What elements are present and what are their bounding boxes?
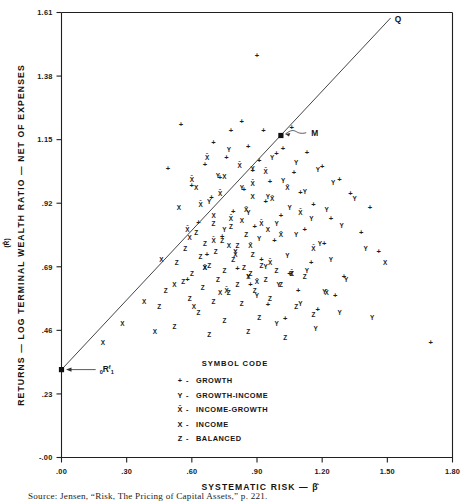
data-point: Y	[353, 195, 358, 202]
data-point: X̄	[270, 195, 275, 203]
data-point: Y	[363, 245, 368, 252]
data-point: Z	[235, 242, 239, 249]
data-point: X̄	[244, 206, 249, 214]
legend-label: INCOME	[196, 420, 229, 429]
data-point: Z	[220, 237, 224, 244]
data-point: Z	[268, 295, 272, 302]
data-point: +	[211, 138, 216, 147]
y-axis-symbol: (R̂)	[2, 238, 11, 247]
data-point: +	[205, 250, 210, 259]
data-point: Z	[240, 300, 244, 307]
data-point: Z	[229, 223, 233, 230]
data-point: +	[281, 144, 286, 153]
data-point: +	[305, 148, 310, 157]
data-point: +	[429, 338, 434, 347]
data-point: Z	[190, 270, 194, 277]
data-point: Z	[216, 276, 220, 283]
x-tick-label: 1.50	[380, 467, 395, 476]
y-axis-title: RETURNS — LOG TERMINAL WEALTH RATIO — NE…	[16, 64, 26, 406]
data-point: Z	[183, 245, 187, 252]
x-tick-label: .90	[252, 467, 263, 476]
data-point: Y	[337, 309, 342, 316]
data-point: +	[320, 162, 325, 171]
legend-glyph: Y	[178, 391, 183, 400]
data-point: X̄	[279, 231, 284, 239]
data-point: +	[292, 168, 297, 177]
data-point: Y	[240, 184, 245, 191]
data-point: Z	[212, 298, 216, 305]
data-point: Z	[231, 256, 235, 263]
y-tick-label: .92	[42, 199, 53, 208]
data-point: +	[166, 164, 171, 173]
data-point: X	[240, 217, 245, 224]
data-point: X̄	[229, 214, 234, 222]
legend-dash: -	[186, 405, 189, 414]
data-point: +	[316, 305, 321, 314]
data-point: Z	[214, 248, 218, 255]
data-point: Y	[294, 231, 299, 238]
data-point: Y	[298, 300, 303, 307]
legend-label: BALANCED	[196, 434, 242, 443]
data-point: Z	[181, 278, 185, 285]
data-point: X	[383, 259, 388, 266]
data-point: +	[224, 153, 229, 162]
data-point: Z	[283, 334, 287, 341]
data-point: Z	[164, 287, 168, 294]
data-point: Y	[340, 222, 345, 229]
y-tick-label: 1.15	[37, 135, 52, 144]
legend: SYMBOL CODE+-GROWTHY-GROWTH-INCOMEX̄-INC…	[178, 359, 269, 443]
legend-glyph: X̄	[178, 405, 183, 414]
data-point: X̄	[259, 219, 264, 227]
legend-dash: -	[186, 420, 189, 429]
data-point: Z	[175, 259, 179, 266]
data-point: X̄	[211, 236, 216, 244]
data-point: Y	[257, 235, 262, 242]
data-point: Y	[216, 172, 221, 179]
data-point: Z	[242, 264, 246, 271]
data-point: Y	[309, 215, 314, 222]
data-point: X	[153, 328, 158, 335]
x-tick-label: 1.20	[315, 467, 330, 476]
legend-dash: -	[186, 376, 189, 385]
data-points: ++++++++++++++++++++++++++++++++++++++++…	[101, 51, 434, 347]
data-point: X	[120, 320, 125, 327]
data-point: Y	[274, 320, 279, 327]
data-point: Y	[294, 159, 299, 166]
data-point: Y	[318, 240, 323, 247]
legend-label: INCOME-GROWTH	[196, 405, 268, 414]
data-point: Y	[331, 179, 336, 186]
data-point: X̄	[268, 258, 273, 266]
annotation-m: M	[311, 128, 318, 138]
data-point: +	[322, 239, 327, 248]
data-point: X̄	[237, 161, 242, 169]
legend-label: GROWTH-INCOME	[196, 391, 268, 400]
data-point: Z	[249, 270, 253, 277]
data-point: Z	[222, 317, 226, 324]
data-point: X̄	[251, 179, 256, 187]
data-point: Z	[279, 281, 283, 288]
data-point: X	[251, 193, 256, 200]
data-point: Y	[303, 188, 308, 195]
data-point: +	[279, 211, 284, 220]
data-point: X	[227, 242, 232, 249]
data-point: Z	[251, 251, 255, 258]
series-income: XXXXXXXXXXXXXXXXXXXX	[101, 173, 388, 346]
data-point: X	[177, 204, 182, 211]
figure-container: 1.611.381.15.92.69.46.23-.00.00.30.60.90…	[0, 0, 467, 504]
data-point: X	[101, 339, 106, 346]
data-point: Z	[244, 231, 248, 238]
data-point: X̄	[185, 225, 190, 233]
data-point: +	[329, 214, 334, 223]
y-tick-label: .46	[42, 326, 53, 335]
data-point: Z	[312, 311, 316, 318]
axis-titles: SYSTEMATIC RISK — β̂RETURNS — LOG TERMIN…	[2, 64, 320, 491]
data-point: +	[255, 51, 260, 60]
data-point: +	[311, 200, 316, 209]
risk-free-point	[59, 367, 64, 372]
data-point: Z	[275, 267, 279, 274]
data-point: Z	[207, 331, 211, 338]
data-point: X	[172, 281, 177, 288]
data-point: Y	[287, 204, 292, 211]
data-point: +	[303, 225, 308, 234]
source-caption: Source: Jensen, “Risk, The Pricing of Ca…	[28, 491, 268, 501]
